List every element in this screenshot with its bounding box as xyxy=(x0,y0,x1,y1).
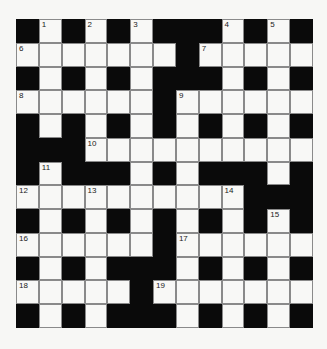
crossword-cell[interactable] xyxy=(267,257,290,281)
crossword-cell[interactable] xyxy=(244,233,267,257)
crossword-cell[interactable] xyxy=(199,185,222,209)
crossword-cell[interactable] xyxy=(222,43,245,67)
crossword-cell[interactable] xyxy=(39,304,62,328)
crossword-cell[interactable] xyxy=(176,138,199,162)
crossword-cell[interactable]: 16 xyxy=(16,233,39,257)
crossword-cell[interactable] xyxy=(222,138,245,162)
crossword-cell[interactable]: 5 xyxy=(267,19,290,43)
crossword-cell[interactable] xyxy=(153,138,176,162)
crossword-cell[interactable] xyxy=(290,138,313,162)
crossword-cell[interactable] xyxy=(176,209,199,233)
crossword-cell[interactable] xyxy=(176,185,199,209)
crossword-cell[interactable] xyxy=(107,90,130,114)
crossword-cell[interactable] xyxy=(222,257,245,281)
crossword-cell[interactable] xyxy=(85,304,108,328)
crossword-cell[interactable] xyxy=(290,233,313,257)
crossword-cell[interactable] xyxy=(222,209,245,233)
crossword-cell[interactable] xyxy=(130,114,153,138)
crossword-cell[interactable] xyxy=(85,114,108,138)
crossword-cell[interactable] xyxy=(85,43,108,67)
crossword-cell[interactable] xyxy=(222,67,245,91)
crossword-cell[interactable] xyxy=(267,43,290,67)
crossword-cell[interactable]: 3 xyxy=(130,19,153,43)
crossword-cell[interactable]: 17 xyxy=(176,233,199,257)
crossword-cell[interactable] xyxy=(244,138,267,162)
crossword-cell[interactable] xyxy=(85,90,108,114)
crossword-cell[interactable] xyxy=(107,43,130,67)
crossword-cell[interactable] xyxy=(62,90,85,114)
crossword-cell[interactable]: 13 xyxy=(85,185,108,209)
crossword-cell[interactable] xyxy=(176,304,199,328)
crossword-cell[interactable] xyxy=(130,233,153,257)
crossword-cell[interactable] xyxy=(85,233,108,257)
crossword-cell[interactable] xyxy=(244,90,267,114)
crossword-cell[interactable] xyxy=(290,90,313,114)
crossword-cell[interactable] xyxy=(222,114,245,138)
crossword-cell[interactable] xyxy=(130,138,153,162)
crossword-cell[interactable] xyxy=(39,90,62,114)
crossword-cell[interactable] xyxy=(130,185,153,209)
crossword-cell[interactable] xyxy=(130,67,153,91)
crossword-cell[interactable] xyxy=(130,209,153,233)
crossword-cell[interactable] xyxy=(130,162,153,186)
crossword-cell[interactable] xyxy=(85,257,108,281)
crossword-cell[interactable] xyxy=(85,280,108,304)
crossword-cell[interactable] xyxy=(222,304,245,328)
crossword-cell[interactable] xyxy=(39,67,62,91)
crossword-cell[interactable]: 8 xyxy=(16,90,39,114)
crossword-cell[interactable] xyxy=(244,43,267,67)
crossword-cell[interactable] xyxy=(267,67,290,91)
crossword-cell[interactable] xyxy=(267,138,290,162)
crossword-cell[interactable] xyxy=(199,138,222,162)
crossword-cell[interactable] xyxy=(107,233,130,257)
crossword-cell[interactable] xyxy=(244,280,267,304)
crossword-cell[interactable]: 7 xyxy=(199,43,222,67)
crossword-cell[interactable] xyxy=(107,138,130,162)
crossword-cell[interactable] xyxy=(62,280,85,304)
crossword-cell[interactable] xyxy=(267,114,290,138)
crossword-cell[interactable]: 18 xyxy=(16,280,39,304)
crossword-cell[interactable] xyxy=(85,209,108,233)
crossword-cell[interactable]: 14 xyxy=(222,185,245,209)
crossword-cell[interactable] xyxy=(39,43,62,67)
crossword-cell[interactable] xyxy=(62,233,85,257)
crossword-cell[interactable] xyxy=(130,90,153,114)
crossword-cell[interactable] xyxy=(199,280,222,304)
crossword-cell[interactable] xyxy=(176,257,199,281)
crossword-cell[interactable] xyxy=(85,67,108,91)
crossword-cell[interactable] xyxy=(267,304,290,328)
crossword-cell[interactable]: 6 xyxy=(16,43,39,67)
crossword-cell[interactable] xyxy=(153,185,176,209)
crossword-cell[interactable] xyxy=(222,233,245,257)
crossword-cell[interactable] xyxy=(176,280,199,304)
crossword-cell[interactable] xyxy=(39,114,62,138)
crossword-cell[interactable]: 4 xyxy=(222,19,245,43)
crossword-cell[interactable] xyxy=(39,185,62,209)
crossword-cell[interactable] xyxy=(267,233,290,257)
crossword-cell[interactable] xyxy=(199,90,222,114)
crossword-cell[interactable] xyxy=(130,43,153,67)
crossword-cell[interactable]: 11 xyxy=(39,162,62,186)
crossword-cell[interactable] xyxy=(176,114,199,138)
crossword-cell[interactable]: 15 xyxy=(267,209,290,233)
crossword-cell[interactable] xyxy=(267,90,290,114)
crossword-cell[interactable]: 9 xyxy=(176,90,199,114)
crossword-cell[interactable] xyxy=(62,185,85,209)
crossword-cell[interactable]: 19 xyxy=(153,280,176,304)
crossword-cell[interactable] xyxy=(39,257,62,281)
crossword-cell[interactable] xyxy=(39,209,62,233)
crossword-cell[interactable] xyxy=(290,43,313,67)
crossword-cell[interactable] xyxy=(222,90,245,114)
crossword-cell[interactable]: 1 xyxy=(39,19,62,43)
crossword-cell[interactable]: 10 xyxy=(85,138,108,162)
crossword-cell[interactable] xyxy=(107,185,130,209)
crossword-cell[interactable] xyxy=(107,280,130,304)
crossword-cell[interactable] xyxy=(267,280,290,304)
crossword-cell[interactable] xyxy=(62,43,85,67)
crossword-cell[interactable] xyxy=(290,280,313,304)
crossword-cell[interactable] xyxy=(176,162,199,186)
crossword-cell[interactable] xyxy=(199,233,222,257)
crossword-cell[interactable] xyxy=(267,162,290,186)
crossword-cell[interactable] xyxy=(39,280,62,304)
crossword-cell[interactable] xyxy=(153,43,176,67)
